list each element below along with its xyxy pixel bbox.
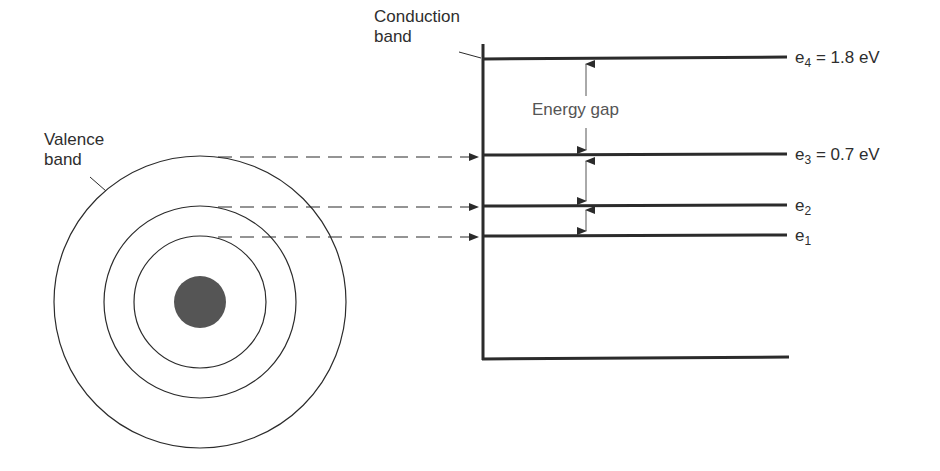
level-e4-label: e4 = 1.8 eV xyxy=(795,48,880,68)
conduction-label-line2: band xyxy=(374,27,460,47)
valence-band-leader xyxy=(90,177,106,191)
conduction-band-label: Conduction band xyxy=(374,7,460,47)
level-e3 xyxy=(483,154,787,155)
level-e1-label: e1 xyxy=(795,226,811,246)
valence-band-label: Valence band xyxy=(44,130,104,170)
nucleus xyxy=(174,276,226,328)
level-e2 xyxy=(483,205,787,206)
energy-levels xyxy=(483,57,787,236)
conduction-band-leader xyxy=(459,52,481,58)
energy-band-diagram: Conduction band Valence band Energy gap … xyxy=(0,0,940,471)
energy-gap-label: Energy gap xyxy=(532,100,619,120)
valence-label-line1: Valence xyxy=(44,130,104,150)
conduction-label-line1: Conduction xyxy=(374,7,460,27)
energy-axis-baseline xyxy=(482,357,789,359)
level-e2-label: e2 xyxy=(795,196,811,216)
level-e4 xyxy=(483,57,787,59)
level-e1 xyxy=(483,235,787,236)
valence-label-line2: band xyxy=(44,150,104,170)
level-e3-label: e3 = 0.7 eV xyxy=(795,145,880,165)
atom xyxy=(54,156,346,448)
